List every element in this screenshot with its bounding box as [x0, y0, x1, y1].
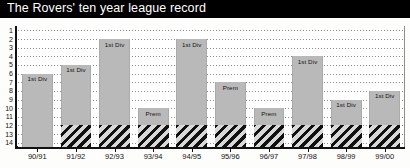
y-axis-line	[15, 26, 17, 148]
bar-hatched-segment	[331, 125, 362, 147]
x-tick-label: 93/94	[134, 152, 173, 161]
x-tick-label: 96/97	[250, 152, 289, 161]
bar-hatched-segment	[138, 125, 169, 147]
bar-division-label: 1st Div	[298, 58, 318, 65]
bar-solid-segment	[292, 56, 323, 125]
bar-group[interactable]: Prem	[254, 26, 285, 147]
bar-division-label: Prem	[223, 84, 238, 91]
y-tick-label: 11	[0, 113, 13, 120]
y-tick-label: 13	[0, 131, 13, 138]
bar-solid-segment	[99, 39, 130, 125]
x-tick-mark	[269, 149, 270, 152]
y-tick-label: 4	[0, 53, 13, 60]
bar-division-label: Prem	[261, 110, 276, 117]
bar-group[interactable]: 1st Div	[292, 26, 323, 147]
bar-solid-segment	[61, 65, 92, 126]
bar-hatched-segment	[215, 125, 246, 147]
bar-hatched-segment	[292, 125, 323, 147]
plot-right-border	[404, 26, 405, 147]
bar-hatched-segment	[176, 125, 207, 147]
x-tick-label: 95/96	[211, 152, 250, 161]
y-tick-label: 10	[0, 105, 13, 112]
chart-title-bar: The Rovers' ten year league record	[0, 0, 410, 18]
x-tick-mark	[115, 149, 116, 152]
x-tick-mark	[76, 149, 77, 152]
x-tick-label: 91/92	[57, 152, 96, 161]
bar-hatched-segment	[61, 125, 92, 147]
y-tick-label: 2	[0, 36, 13, 43]
bar-hatched-segment	[369, 125, 400, 147]
x-tick-mark	[37, 149, 38, 152]
y-tick-label: 14	[0, 139, 13, 146]
x-tick-mark	[192, 149, 193, 152]
x-tick-label: 90/91	[18, 152, 57, 161]
bar-group[interactable]: 1st Div	[22, 26, 53, 147]
bar-division-label: 1st Div	[66, 66, 86, 73]
bar-group[interactable]: 1st Div	[61, 26, 92, 147]
bar-hatched-segment	[254, 125, 285, 147]
bar-group[interactable]: Prem	[138, 26, 169, 147]
bar-solid-segment	[22, 74, 53, 148]
plot-area: 1st Div1st Div1st DivPrem1st DivPremPrem…	[18, 26, 404, 147]
y-tick-label: 12	[0, 122, 13, 129]
bar-hatched-segment	[99, 125, 130, 147]
x-tick-mark	[385, 149, 386, 152]
x-tick-mark	[230, 149, 231, 152]
x-tick-label: 97/98	[288, 152, 327, 161]
bar-division-label: 1st Div	[336, 101, 356, 108]
y-tick-label: 5	[0, 61, 13, 68]
x-tick-label: 98/99	[327, 152, 366, 161]
league-record-chart-figure: The Rovers' ten year league record 12345…	[0, 0, 410, 168]
x-tick-mark	[308, 149, 309, 152]
bar-group[interactable]: 1st Div	[99, 26, 130, 147]
x-tick-label: 94/95	[172, 152, 211, 161]
y-tick-label: 1	[0, 27, 13, 34]
y-tick-label: 6	[0, 70, 13, 77]
bar-division-label: 1st Div	[28, 75, 48, 82]
x-tick-mark	[153, 149, 154, 152]
y-tick-label: 3	[0, 44, 13, 51]
x-tick-mark	[346, 149, 347, 152]
y-tick-label: 8	[0, 87, 13, 94]
bar-solid-segment	[176, 39, 207, 125]
bar-group[interactable]: 1st Div	[369, 26, 400, 147]
y-tick-label: 7	[0, 79, 13, 86]
chart-title: The Rovers' ten year league record	[7, 1, 206, 15]
bar-division-label: 1st Div	[182, 41, 202, 48]
bar-division-label: Prem	[146, 110, 161, 117]
bar-group[interactable]: 1st Div	[331, 26, 362, 147]
bar-group[interactable]: 1st Div	[176, 26, 207, 147]
bar-group[interactable]: Prem	[215, 26, 246, 147]
x-tick-label: 92/93	[95, 152, 134, 161]
bar-division-label: 1st Div	[375, 92, 395, 99]
x-tick-label: 99/00	[365, 152, 404, 161]
y-tick-label: 9	[0, 96, 13, 103]
bar-division-label: 1st Div	[105, 41, 125, 48]
